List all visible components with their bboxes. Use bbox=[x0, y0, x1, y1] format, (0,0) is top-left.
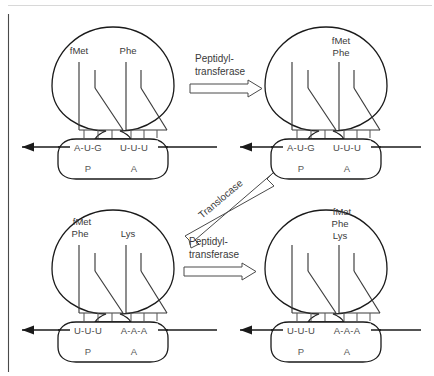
aa-label-phe-top-left: Phe bbox=[120, 45, 137, 56]
codon-p-top-left: A-U-G bbox=[74, 142, 102, 153]
site-label-p-top-left: P bbox=[85, 163, 91, 174]
mrna-arrowhead-left-bottom bbox=[22, 325, 34, 334]
ribosome-top-right: fMet Phe A-U-G U-U-U P A bbox=[240, 27, 421, 179]
arrow-top-label-line2: transferase bbox=[195, 66, 245, 77]
aa-label-lys-bottom-left: Lys bbox=[121, 228, 136, 239]
large-subunit-top-right bbox=[265, 27, 387, 139]
aa-label-fmet-top-left: fMet bbox=[70, 45, 89, 56]
arrow-bottom-label-line1: Peptidyl- bbox=[189, 236, 228, 247]
figure-canvas: fMet Phe A-U-G U-U-U P A Peptidyl- trans… bbox=[0, 0, 434, 376]
site-label-a-bottom-right: A bbox=[344, 346, 351, 357]
arrow-top-label-line1: Peptidyl- bbox=[195, 53, 234, 64]
ribosome-top-left: fMet Phe A-U-G U-U-U P A bbox=[22, 27, 217, 179]
site-label-p-top-right: P bbox=[298, 163, 304, 174]
site-label-p-bottom-left: P bbox=[85, 346, 91, 357]
codon-p-top-right: A-U-G bbox=[287, 142, 315, 153]
codon-a-bottom-left: A-A-A bbox=[121, 325, 148, 336]
aa-label-fmet-top-right: fMet bbox=[332, 35, 351, 46]
site-label-a-bottom-left: A bbox=[131, 346, 138, 357]
large-subunit-bottom-right bbox=[265, 210, 387, 322]
aa-label-lys-bottom-right: Lys bbox=[333, 230, 348, 241]
translation-cycle-diagram: fMet Phe A-U-G U-U-U P A Peptidyl- trans… bbox=[0, 0, 434, 376]
large-subunit-bottom-left bbox=[52, 210, 174, 322]
site-label-a-top-right: A bbox=[344, 163, 351, 174]
arrow-peptidyl-transferase-top: Peptidyl- transferase bbox=[190, 53, 262, 97]
aa-label-phe-top-right: Phe bbox=[333, 47, 350, 58]
codon-p-bottom-left: U-U-U bbox=[74, 325, 102, 336]
codon-p-bottom-right: U-U-U bbox=[287, 325, 315, 336]
arrow-shape-top bbox=[190, 80, 262, 97]
site-label-p-bottom-right: P bbox=[298, 346, 304, 357]
arrow-peptidyl-transferase-bottom: Peptidyl- transferase bbox=[184, 236, 256, 280]
ribosome-bottom-left: fMet Phe Lys U-U-U A-A-A P A bbox=[22, 210, 217, 362]
ribosome-bottom-right: fMet Phe Lys U-U-U A-A-A P A bbox=[240, 206, 421, 362]
aa-label-phe-bottom-left: Phe bbox=[72, 228, 89, 239]
aa-label-fmet-bottom-right: fMet bbox=[333, 206, 352, 217]
large-subunit-top-left bbox=[52, 27, 174, 139]
site-label-a-top-left: A bbox=[131, 163, 138, 174]
aa-label-fmet-bottom-left: fMet bbox=[73, 216, 92, 227]
mrna-arrowhead-right-top bbox=[240, 142, 252, 151]
arrow-translocase-label: Translocase bbox=[196, 177, 245, 220]
arrow-shape-bottom bbox=[184, 263, 256, 280]
mrna-arrowhead-left-top bbox=[22, 142, 34, 151]
arrow-bottom-label-line2: transferase bbox=[189, 249, 239, 260]
mrna-arrowhead-right-bottom bbox=[240, 325, 252, 334]
codon-a-top-left: U-U-U bbox=[120, 142, 148, 153]
aa-label-phe-bottom-right: Phe bbox=[332, 218, 349, 229]
codon-a-top-right: U-U-U bbox=[333, 142, 361, 153]
codon-a-bottom-right: A-A-A bbox=[334, 325, 361, 336]
